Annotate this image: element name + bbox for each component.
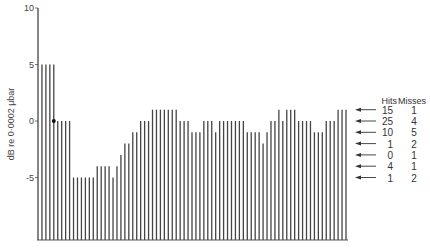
legend-hits: 0	[387, 150, 393, 161]
legend-misses: 2	[411, 139, 417, 150]
legend-arrow-head	[355, 108, 361, 112]
legend-misses: 5	[411, 127, 417, 138]
legend-hits: 15	[382, 105, 394, 116]
legend-misses: 2	[411, 173, 417, 184]
bars	[38, 8, 346, 240]
legend-hits: 25	[382, 116, 394, 127]
legend-misses: 4	[411, 116, 417, 127]
legend-arrow-head	[355, 142, 361, 146]
legend-arrow-head	[355, 176, 361, 180]
y-tick-label: 5	[29, 60, 34, 70]
legend-arrow-head	[355, 119, 361, 123]
y-axis-label: dB re 0·0002 μbar	[6, 88, 16, 161]
legend-arrow-head	[355, 153, 361, 157]
chart: 1050-5 dB re 0·0002 μbar Hits Misses 151…	[0, 0, 430, 249]
legend-hits: 1	[387, 139, 393, 150]
legend-misses: 1	[411, 150, 417, 161]
y-axis: 1050-5	[24, 3, 348, 240]
marker-dot	[52, 119, 56, 123]
y-tick-label: -5	[26, 173, 34, 183]
legend-misses: 1	[411, 105, 417, 116]
legend-hits: 1	[387, 173, 393, 184]
legend-arrow-head	[355, 164, 361, 168]
legend: Hits Misses 15125410512014112	[355, 96, 426, 184]
legend-hits: 10	[382, 127, 394, 138]
y-tick-label: 0	[29, 116, 34, 126]
legend-hits: 4	[387, 161, 393, 172]
legend-arrow-head	[355, 130, 361, 134]
legend-misses: 1	[411, 161, 417, 172]
y-tick-label: 10	[24, 3, 34, 13]
